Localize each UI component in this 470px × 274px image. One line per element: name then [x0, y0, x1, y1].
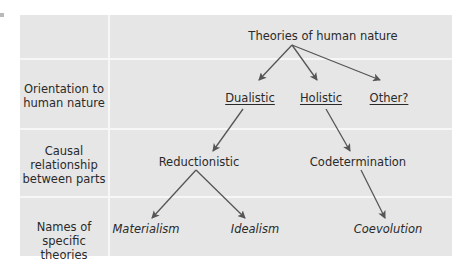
- node-codetermination: Codetermination: [310, 155, 406, 169]
- arrow-codetermination-to-coevolution: [361, 170, 385, 218]
- arrow-reductionistic-to-idealism: [196, 170, 245, 218]
- node-other: Other?: [370, 91, 409, 105]
- arrow-reductionistic-to-materialism: [152, 170, 196, 218]
- arrow-root-to-dualistic: [259, 45, 292, 80]
- node-reductionistic: Reductionistic: [159, 155, 240, 169]
- arrow-dualistic-to-reductionistic: [213, 109, 243, 151]
- node-holistic: Holistic: [300, 91, 342, 105]
- node-root: Theories of human nature: [248, 29, 397, 43]
- node-coevolution: Coevolution: [354, 222, 423, 236]
- arrow-holistic-to-codetermination: [326, 109, 350, 151]
- node-dualistic: Dualistic: [225, 91, 275, 105]
- node-idealism: Idealism: [231, 222, 279, 236]
- node-materialism: Materialism: [112, 222, 179, 236]
